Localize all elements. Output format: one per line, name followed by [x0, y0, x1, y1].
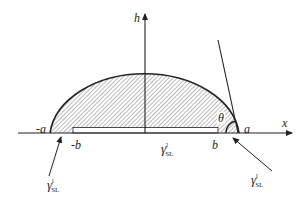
gamma-sl-center: γSL2 [161, 142, 177, 155]
right-interface-arrow [233, 138, 272, 171]
gamma-sl-left: γSL1 [47, 178, 63, 191]
point-a: a [244, 123, 250, 135]
droplet-diagram [0, 0, 303, 202]
point-neg-a: -a [36, 123, 46, 135]
x-axis-label: x [282, 117, 287, 129]
point-b: b [212, 139, 218, 151]
gamma-sl-right: γSL1 [251, 173, 267, 186]
contact-angle-label: θ [217, 112, 225, 124]
left-interface-arrow [49, 137, 61, 176]
h-axis-label: h [134, 12, 140, 24]
point-neg-b: -b [71, 139, 81, 151]
